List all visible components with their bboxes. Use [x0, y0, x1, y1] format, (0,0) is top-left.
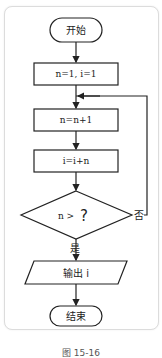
step2-box: i=i+n: [34, 150, 118, 172]
output-box: 输出 i: [25, 261, 127, 284]
init-box: n=1, i=1: [34, 63, 118, 85]
step1-label: n=n+1: [60, 115, 92, 125]
start-terminal: 开始: [50, 18, 102, 42]
step2-label: i=i+n: [63, 156, 90, 166]
condition-label: n >: [58, 211, 74, 221]
condition-diamond: n > ?: [21, 191, 132, 239]
start-label: 开始: [66, 24, 86, 36]
end-label: 结束: [66, 310, 86, 322]
end-terminal: 结束: [50, 306, 102, 326]
no-label: 否: [134, 210, 144, 221]
step1-box: n=n+1: [34, 109, 118, 131]
init-label: n=1, i=1: [56, 69, 97, 79]
flowchart: 开始 n=1, i=1 n=n+1 i=i+n n > ? 否 是 输出 i 结…: [0, 0, 162, 358]
output-label: 输出 i: [63, 267, 89, 279]
yes-label: 是: [70, 243, 80, 254]
condition-unknown: ?: [80, 207, 88, 225]
figure-caption: 图 15-16: [0, 346, 162, 358]
